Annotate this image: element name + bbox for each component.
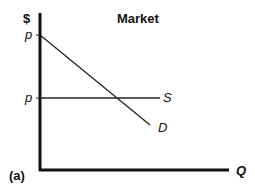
supply-label: S [163,91,172,104]
price-top-label: p [25,28,32,41]
x-axis-label: Q [236,164,246,177]
market-diagram [0,0,255,194]
demand-label: D [158,121,167,134]
price-supply-label: p [25,91,32,104]
chart-title: Market [117,12,159,25]
demand-curve [40,35,150,125]
panel-label: (a) [9,169,25,182]
y-axis-label: $ [23,12,30,25]
